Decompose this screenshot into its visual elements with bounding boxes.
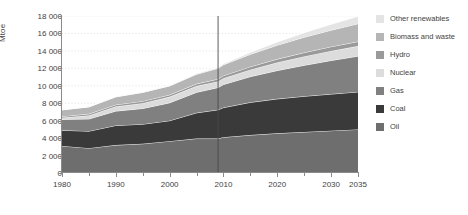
x-axis-tick-mark [62, 173, 63, 177]
plot-area [62, 16, 358, 173]
x-axis-tick-mark [358, 173, 359, 177]
y-axis-tick-label: 0 [18, 169, 62, 178]
x-axis-minor-tick-mark [250, 173, 251, 176]
y-axis-tick-label: 16 000 [18, 29, 62, 38]
y-axis-tick-label: 14 000 [18, 46, 62, 55]
y-axis-tick-label: 18 000 [18, 12, 62, 21]
y-axis-tick-label: 6 000 [18, 116, 62, 125]
x-axis-tick-mark [331, 173, 332, 177]
y-axis-tick-label: 2 000 [18, 151, 62, 160]
x-axis-minor-tick-mark [143, 173, 144, 176]
x-axis-tick-label: 2020 [268, 180, 286, 189]
x-axis-tick-label: 1990 [107, 180, 125, 189]
legend-item[interactable]: Biomass and waste [376, 28, 468, 46]
legend-item[interactable]: Coal [376, 100, 468, 118]
y-axis-tick-label: 10 000 [18, 81, 62, 90]
x-axis-tick-marks [62, 173, 358, 178]
y-axis-tick-label: 8 000 [18, 99, 62, 108]
legend-label: Nuclear [390, 69, 416, 77]
y-axis-tick-label: 12 000 [18, 64, 62, 73]
projection-divider-line [62, 16, 358, 173]
y-axis-tick-labels: 02 0004 0006 0008 00010 00012 00014 0001… [14, 16, 62, 173]
x-axis-tick-label: 2030 [322, 180, 340, 189]
x-axis-tick-label: 2035 [349, 180, 367, 189]
legend-item[interactable]: Gas [376, 82, 468, 100]
legend-item[interactable]: Hydro [376, 46, 468, 64]
x-axis-tick-label: 2000 [161, 180, 179, 189]
legend-label: Oil [390, 123, 399, 131]
legend-label: Biomass and waste [390, 33, 455, 41]
chart-figure: Mtoe 02 0004 0006 0008 00010 00012 00014… [0, 0, 468, 215]
legend-swatch-icon [376, 51, 384, 59]
x-axis-tick-label: 1980 [53, 180, 71, 189]
x-axis-minor-tick-mark [304, 173, 305, 176]
legend-label: Hydro [390, 51, 410, 59]
legend-swatch-icon [376, 15, 384, 23]
x-axis-tick-mark [116, 173, 117, 177]
x-axis-tick-label: 2010 [215, 180, 233, 189]
x-axis-tick-labels: 1980199020002010202020302035 [62, 180, 358, 194]
x-axis-tick-mark [170, 173, 171, 177]
chart-legend: Other renewablesBiomass and wasteHydroNu… [376, 10, 468, 136]
y-axis-title: Mtoe [0, 0, 7, 42]
legend-item[interactable]: Nuclear [376, 64, 468, 82]
legend-swatch-icon [376, 123, 384, 131]
legend-label: Gas [390, 87, 404, 95]
legend-swatch-icon [376, 69, 384, 77]
y-axis-tick-label: 4 000 [18, 134, 62, 143]
x-axis-tick-mark [223, 173, 224, 177]
legend-item[interactable]: Other renewables [376, 10, 468, 28]
legend-swatch-icon [376, 33, 384, 41]
legend-swatch-icon [376, 105, 384, 113]
x-axis-minor-tick-mark [89, 173, 90, 176]
x-axis-minor-tick-mark [197, 173, 198, 176]
legend-label: Coal [390, 105, 405, 113]
legend-label: Other renewables [390, 15, 449, 23]
legend-item[interactable]: Oil [376, 118, 468, 136]
legend-swatch-icon [376, 87, 384, 95]
x-axis-tick-mark [277, 173, 278, 177]
